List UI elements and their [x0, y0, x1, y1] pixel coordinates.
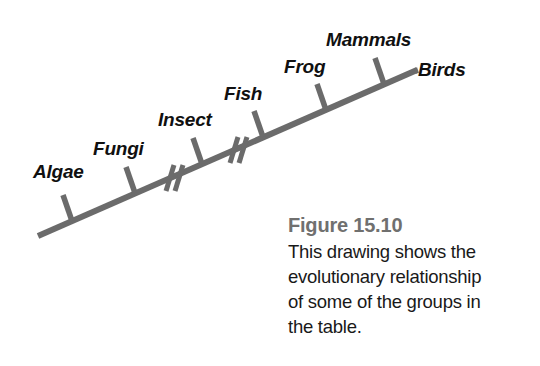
tick-mark-fish: [254, 111, 263, 137]
timeline-label-mammals: Mammals: [326, 30, 411, 49]
timeline-label-algae: Algae: [33, 162, 84, 181]
figure-caption-title: Figure 15.10: [288, 213, 540, 238]
figure-caption: Figure 15.10 This drawing shows theevolu…: [288, 213, 540, 339]
timeline-label-birds: Birds: [418, 60, 466, 79]
timeline-label-fungi: Fungi: [93, 139, 144, 158]
timeline-label-fish: Fish: [224, 84, 262, 103]
timeline-label-insect: Insect: [158, 110, 212, 129]
tick-mark-insect: [193, 138, 202, 164]
tick-mark-algae: [63, 195, 72, 221]
figure-caption-body: This drawing shows theevolutionary relat…: [288, 239, 540, 339]
figure-caption-line: This drawing shows the: [288, 239, 540, 264]
timeline-label-frog: Frog: [284, 57, 325, 76]
tick-mark-frog: [317, 84, 326, 110]
figure-caption-line: evolutionary relationship: [288, 264, 540, 289]
figure-caption-line: of some of the groups in: [288, 289, 540, 314]
figure-caption-line: the table.: [288, 314, 540, 339]
tick-mark-fungi: [126, 167, 135, 193]
tick-mark-mammals: [375, 58, 384, 84]
figure-page: AlgaeFungiInsectFishFrogMammalsBirds Fig…: [0, 0, 540, 366]
